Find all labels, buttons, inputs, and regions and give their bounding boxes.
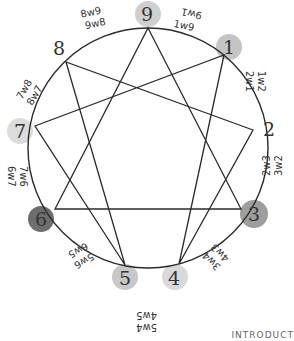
page-caption: INTRODUCT [231,330,294,340]
enneagram-circle [28,28,268,268]
wings-3-4: 3w4 4w3 [200,242,231,273]
wings-4-5: 5w4 4w5 [136,310,157,333]
svg-text:2w1: 2w1 [244,71,255,92]
wings-2-3: 2w3 3w2 [261,155,284,176]
wings-1-2: 1w2 2w1 [244,71,267,92]
point-4-label: 4 [168,267,180,289]
svg-text:2w3: 2w3 [261,155,272,176]
wings-7-8: 7w8 8w7 [14,77,44,107]
svg-text:1w2: 1w2 [256,71,267,92]
point-7-label: 7 [14,120,26,142]
hexad-1-4-2-8-5-7 [35,55,253,265]
svg-text:5w4: 5w4 [136,322,157,333]
wings-5-6: 5w6 6w5 [66,241,96,271]
point-5-label: 5 [119,267,131,289]
point-1-label: 1 [223,36,235,58]
point-9-label: 9 [141,3,153,25]
wings-8-9: 8w9 9w8 [79,4,106,31]
point-3-label: 3 [248,203,260,225]
point-2-label: 2 [263,118,275,140]
svg-text:7w6: 7w6 [18,166,29,187]
wings-6-7: 7w6 6w7 [6,166,29,187]
svg-text:6w7: 6w7 [6,166,17,187]
point-6-label: 6 [35,208,47,230]
wings-9-1: 9w1 1w9 [173,5,203,34]
svg-text:4w5: 4w5 [136,310,157,321]
enneagram-diagram: 9 1 2 3 4 5 6 7 8 8w9 9w8 9w1 1w9 1w2 2w… [0,0,294,341]
svg-text:3w2: 3w2 [273,155,284,176]
point-8-label: 8 [53,37,65,59]
